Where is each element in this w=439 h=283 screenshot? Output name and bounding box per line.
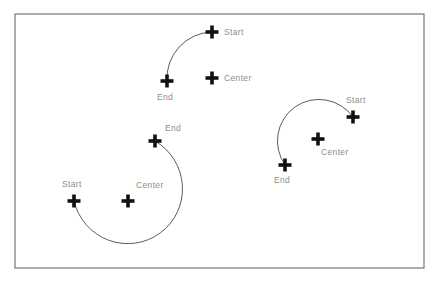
point-label-lbl-top-start: Start xyxy=(224,28,244,37)
arc-curve-arc-bottom-left xyxy=(74,141,183,244)
arc-curves-group xyxy=(74,32,353,244)
cross-marker-arc-bottom-left-end xyxy=(149,135,162,148)
point-label-lbl-bl-center: Center xyxy=(136,181,164,190)
point-label-lbl-right-center: Center xyxy=(321,148,349,157)
cross-marker-arc-top-end xyxy=(161,75,174,88)
point-label-lbl-bl-end: End xyxy=(165,124,181,133)
arc-curve-arc-top xyxy=(167,32,212,81)
point-label-lbl-bl-start: Start xyxy=(62,180,82,189)
diagram-canvas xyxy=(0,0,439,283)
cross-marker-arc-bottom-left-center xyxy=(122,195,135,208)
point-label-lbl-right-start: Start xyxy=(346,96,366,105)
cross-marker-arc-right-end xyxy=(279,159,292,172)
cross-marker-arc-top-start xyxy=(206,26,219,39)
point-label-lbl-right-end: End xyxy=(274,176,290,185)
arc-diagram: StartCenterEndEndStartCenterStartCenterE… xyxy=(0,0,439,283)
cross-marker-arc-top-center xyxy=(206,72,219,85)
cross-marker-arc-right-start xyxy=(347,111,360,124)
cross-marker-arc-bottom-left-start xyxy=(68,195,81,208)
cross-marker-arc-right-center xyxy=(312,133,325,146)
point-markers-group xyxy=(68,26,360,208)
point-label-lbl-top-center: Center xyxy=(224,74,252,83)
point-label-lbl-top-end: End xyxy=(157,93,173,102)
diagram-border-frame xyxy=(15,14,424,268)
